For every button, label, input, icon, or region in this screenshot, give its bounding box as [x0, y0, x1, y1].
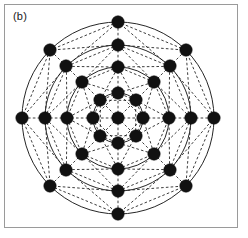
graph-node	[130, 94, 142, 106]
dashed-edge	[169, 118, 170, 170]
graph-node	[112, 61, 124, 73]
graph-node	[112, 112, 124, 124]
graph-node	[137, 112, 149, 124]
dashed-edge	[66, 66, 67, 118]
dashed-edge	[66, 169, 118, 170]
graph-node	[87, 112, 99, 124]
graph-node	[112, 137, 124, 149]
graph-node	[94, 130, 106, 142]
graph-node	[60, 60, 72, 72]
panel-label: (b)	[13, 10, 27, 22]
graph-node	[112, 39, 124, 51]
dashed-edge	[66, 118, 67, 170]
dashed-edge	[66, 66, 118, 67]
graph-node	[44, 44, 56, 56]
graph-node	[112, 87, 124, 99]
graph-node	[112, 208, 124, 220]
dashed-edge	[169, 66, 170, 118]
graph-node	[164, 60, 176, 72]
figure-container: (b)	[0, 0, 248, 238]
graph-node	[148, 76, 160, 88]
graph-node	[164, 164, 176, 176]
graph-node	[112, 185, 124, 197]
graph-node	[16, 112, 28, 124]
dashed-edge	[118, 169, 170, 170]
graph-diagram	[0, 0, 248, 238]
graph-node	[60, 164, 72, 176]
graph-node	[44, 180, 56, 192]
graph-node	[180, 44, 192, 56]
graph-node	[112, 163, 124, 175]
graph-node	[112, 16, 124, 28]
graph-node	[76, 76, 88, 88]
node-group	[16, 16, 220, 220]
graph-node	[163, 112, 175, 124]
graph-node	[130, 130, 142, 142]
graph-node	[148, 148, 160, 160]
dashed-edge	[118, 66, 170, 67]
graph-node	[185, 112, 197, 124]
graph-node	[61, 112, 73, 124]
graph-node	[76, 148, 88, 160]
graph-node	[39, 112, 51, 124]
graph-node	[180, 180, 192, 192]
graph-node	[208, 112, 220, 124]
graph-node	[94, 94, 106, 106]
